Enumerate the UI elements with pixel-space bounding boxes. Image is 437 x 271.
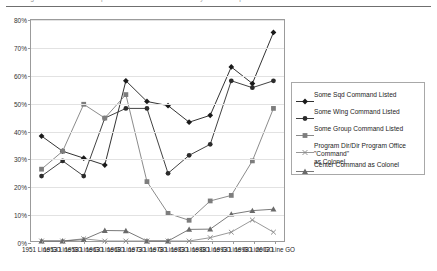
x-axis-tick-mark [254, 241, 255, 244]
series-layer [31, 20, 284, 241]
data-point-marker [145, 179, 150, 184]
x-axis-tick-mark [169, 241, 170, 244]
legend-marker-icon [296, 126, 314, 135]
legend-item[interactable]: Some Wing Command Listed [296, 108, 424, 118]
data-point-marker [166, 171, 171, 176]
data-point-marker [229, 78, 234, 83]
x-axis-tick-mark [275, 241, 276, 244]
legend-item[interactable]: Some Sqd Command Listed [296, 91, 424, 101]
header-divider [6, 6, 431, 7]
x-axis-tick-mark [190, 241, 191, 244]
y-axis-tick-mark [28, 76, 31, 77]
data-point-marker [81, 174, 86, 179]
data-point-marker [208, 142, 213, 147]
gridline [31, 104, 284, 105]
data-point-marker [208, 199, 213, 204]
gridline [31, 187, 284, 188]
gridline [31, 20, 284, 21]
x-axis-tick-mark [42, 241, 43, 244]
legend-marker-icon [296, 143, 314, 152]
series-line [42, 32, 274, 165]
data-point-marker [271, 30, 277, 36]
gridline [31, 48, 284, 49]
chart-legend: Some Sqd Command ListedSome Wing Command… [291, 82, 425, 175]
x-axis-tick-mark [127, 241, 128, 244]
y-axis-tick-mark [28, 159, 31, 160]
y-axis-tick-mark [28, 132, 31, 133]
x-axis-tick-mark [212, 241, 213, 244]
data-point-marker [187, 218, 192, 223]
y-axis-tick-label: 70% [5, 44, 27, 51]
x-axis-tick-mark [63, 241, 64, 244]
y-axis-tick-label: 30% [5, 156, 27, 163]
data-point-marker [271, 230, 276, 235]
data-point-marker [123, 92, 128, 97]
top-caption-strip: Figure — Command Experience of General O… [0, 0, 437, 9]
data-series [39, 206, 277, 243]
legend-label: Some Wing Command Listed [314, 108, 400, 116]
data-point-marker [145, 106, 150, 111]
legend-label: Center Command as Colonel [314, 161, 399, 169]
legend-item[interactable]: Center Command as Colonel [296, 161, 424, 171]
x-axis-tick-mark [84, 241, 85, 244]
data-point-marker [60, 149, 65, 154]
legend-item[interactable]: Some Group Command Listed [296, 125, 424, 135]
data-point-marker [39, 167, 44, 172]
gridline [31, 215, 284, 216]
y-axis-tick-label: 50% [5, 100, 27, 107]
data-point-marker [271, 106, 276, 111]
x-axis-tick-mark [105, 241, 106, 244]
y-axis-tick-mark [28, 20, 31, 21]
line-chart: 0%10%20%30%40%50%60%70%80%1951 Line GO19… [0, 9, 437, 271]
data-series [39, 92, 276, 222]
x-axis-tick-mark [233, 241, 234, 244]
data-point-marker [39, 133, 45, 139]
y-axis-tick-mark [28, 215, 31, 216]
y-axis-tick-mark [28, 187, 31, 188]
y-axis-tick-mark [28, 48, 31, 49]
series-line [42, 209, 274, 241]
y-axis-tick-mark [28, 243, 31, 244]
data-point-marker [102, 162, 108, 168]
plot-area: 0%10%20%30%40%50%60%70%80%1951 Line GO19… [30, 19, 285, 242]
data-point-marker [250, 218, 255, 223]
data-point-marker [229, 193, 234, 198]
legend-label: Some Group Command Listed [314, 125, 403, 133]
data-series [39, 218, 276, 244]
gridline [31, 159, 284, 160]
data-series [39, 78, 276, 178]
data-point-marker [271, 78, 276, 83]
legend-marker-icon [296, 109, 314, 118]
y-axis-tick-label: 80% [5, 17, 27, 24]
data-point-marker [207, 112, 213, 118]
legend-label: Some Sqd Command Listed [314, 91, 396, 99]
y-axis-tick-label: 40% [5, 128, 27, 135]
y-axis-tick-label: 20% [5, 184, 27, 191]
x-axis-tick-mark [148, 241, 149, 244]
y-axis-tick-label: 10% [5, 212, 27, 219]
data-point-marker [39, 174, 44, 179]
x-axis-tick-label: 2002 Line GO [256, 246, 295, 254]
series-line [42, 95, 274, 221]
legend-marker-icon [296, 162, 314, 171]
chart-page: Figure — Command Experience of General O… [0, 0, 437, 271]
gridline [31, 76, 284, 77]
data-point-marker [102, 116, 107, 121]
y-axis-tick-label: 60% [5, 72, 27, 79]
data-point-marker [187, 153, 192, 158]
data-point-marker [123, 106, 128, 111]
series-line [42, 220, 274, 241]
gridline [31, 132, 284, 133]
data-point-marker [250, 85, 255, 90]
legend-marker-icon [296, 92, 314, 101]
data-series [39, 30, 277, 168]
y-axis-tick-mark [28, 104, 31, 105]
series-line [42, 81, 274, 176]
top-caption-text: Figure — Command Experience of General O… [24, 0, 243, 1]
